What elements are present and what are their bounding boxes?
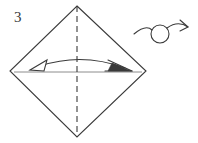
step-number-label: 3 [14,9,22,25]
diagram-canvas: 3 [0,0,198,143]
origami-step-figure: 3 [0,0,198,143]
turn-over-loop-circle [151,25,169,43]
turn-over-tail-curve [134,28,152,34]
fold-arrow-left-hollow-head [30,60,47,71]
fold-arrow-right-head-fill [108,63,131,71]
turn-over-arrowhead [180,20,188,31]
